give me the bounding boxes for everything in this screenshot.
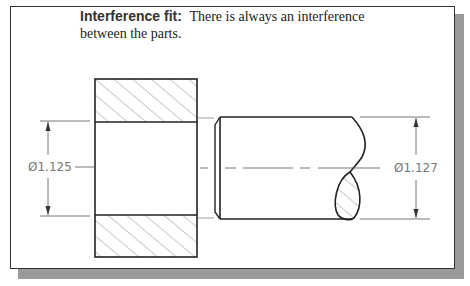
- arrow-up-icon: [414, 118, 419, 127]
- arrow-down-icon: [414, 209, 419, 218]
- shaft-diameter-label: Ø1.127: [394, 161, 438, 175]
- hub-bottom-section-hatch: [95, 215, 197, 257]
- arrow-up-icon: [46, 122, 51, 131]
- hub-top-section-hatch: [95, 79, 197, 122]
- hub-part: [95, 79, 197, 257]
- interference-fit-drawing: Ø1.125 Ø1.127: [0, 0, 470, 286]
- shaft-part: [197, 117, 370, 222]
- arrow-down-icon: [46, 206, 51, 215]
- hole-diameter-label: Ø1.125: [28, 160, 72, 174]
- shaft-break-curve: [350, 117, 365, 172]
